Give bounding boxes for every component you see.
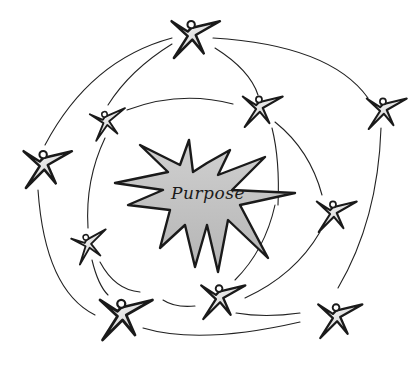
person-figure-right-middle xyxy=(317,201,357,232)
purpose-label: Purpose xyxy=(148,183,268,203)
person-figure-upper-right-inner xyxy=(243,96,283,127)
person-figure-top xyxy=(172,21,220,58)
purpose-starburst xyxy=(115,140,295,272)
purpose-diagram: Purpose xyxy=(0,0,420,367)
person-figure-left-outer xyxy=(24,151,72,188)
person-figure-right-outer xyxy=(367,98,407,129)
person-figure-upper-left-inner xyxy=(90,108,130,141)
person-figure-bottom-left xyxy=(100,300,153,340)
person-figure-bottom-right xyxy=(318,304,362,338)
